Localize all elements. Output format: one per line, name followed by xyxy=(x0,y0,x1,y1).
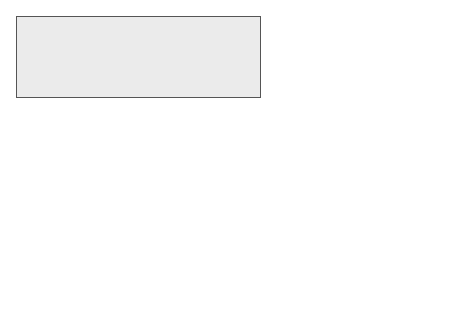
interface-panel-frame xyxy=(16,16,261,98)
